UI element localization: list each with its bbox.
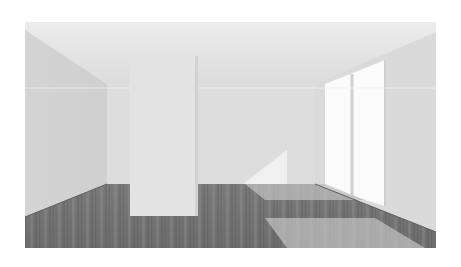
room-render [25, 22, 436, 248]
pillar [130, 56, 198, 216]
room-photo [25, 22, 436, 248]
sliding-door-window [325, 60, 385, 206]
